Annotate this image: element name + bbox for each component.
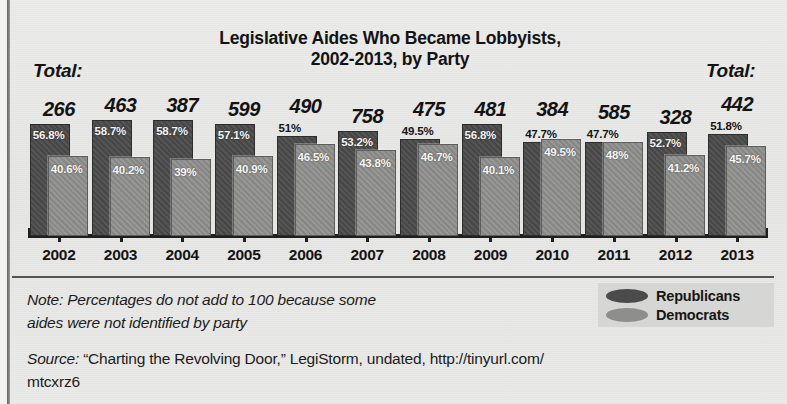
bar-group: 75853.2%43.8% <box>338 88 396 236</box>
chart-source: Source: “Charting the Revolving Door,” L… <box>27 347 767 393</box>
chart-source-word: Source: <box>27 350 79 367</box>
chart-source-line1: “Charting the Revolving Door,” LegiStorm… <box>79 350 544 367</box>
x-axis-label-2008: 2008 <box>400 246 458 264</box>
plot-area: 26656.8%40.6%46358.7%40.2%38758.7%39%599… <box>28 88 768 236</box>
bar-label-democrats: 40.6% <box>51 163 83 175</box>
bar-label-democrats: 45.7% <box>729 153 761 165</box>
bar-total-value: 585 <box>598 101 630 124</box>
legend-label-democrats: Democrats <box>656 307 729 323</box>
bar-total-value: 463 <box>105 94 137 117</box>
bar-total-value: 328 <box>660 106 692 129</box>
x-axis-label-2012: 2012 <box>647 246 705 264</box>
bar-group: 46358.7%40.2% <box>92 88 150 236</box>
x-axis-label-2011: 2011 <box>585 246 643 264</box>
bar-label-democrats: 40.2% <box>113 164 145 176</box>
x-axis-tick-labels: 2002200320042005200620072008200920102011… <box>28 246 768 270</box>
bar-label-democrats: 49.5% <box>544 146 576 158</box>
chart-title-line1: Legislative Aides Who Became Lobbyists, <box>219 28 561 48</box>
chart-title: Legislative Aides Who Became Lobbyists, … <box>150 28 630 70</box>
chart-note-line1: Note: Percentages do not add to 100 beca… <box>27 291 376 308</box>
x-axis-label-2007: 2007 <box>338 246 396 264</box>
x-axis-label-2002: 2002 <box>30 246 88 264</box>
bar-label-republicans: 56.8% <box>465 129 497 141</box>
bar-label-republicans: 51% <box>279 122 301 134</box>
bar-group: 58547.7%48% <box>585 88 643 236</box>
x-axis-label-2006: 2006 <box>277 246 335 264</box>
legend-swatch-democrats-icon <box>606 308 648 322</box>
bar-group: 32852.7%41.2% <box>647 88 705 236</box>
bar-total-value: 490 <box>290 95 322 118</box>
bar-total-value: 387 <box>166 94 198 117</box>
bar-label-republicans: 49.5% <box>402 125 434 137</box>
bar-label-democrats: 40.1% <box>483 164 515 176</box>
total-label-right: Total: <box>706 60 755 82</box>
bar-label-democrats: 39% <box>174 166 196 178</box>
footer-divider <box>12 276 774 278</box>
bar-label-republicans: 56.8% <box>33 129 65 141</box>
bar-group: 47549.5%46.7% <box>400 88 458 236</box>
total-label-left: Total: <box>33 60 82 82</box>
bar-label-democrats: 48% <box>606 149 628 161</box>
bar-total-value: 481 <box>475 98 507 121</box>
x-axis-label-2013: 2013 <box>708 246 766 264</box>
bar-label-democrats: 46.5% <box>298 151 330 163</box>
bar-label-republicans: 57.1% <box>218 129 250 141</box>
x-axis-label-2005: 2005 <box>215 246 273 264</box>
bar-label-democrats: 40.9% <box>236 163 268 175</box>
bar-label-democrats: 43.8% <box>359 157 391 169</box>
bar-label-republicans: 53.2% <box>341 136 373 148</box>
bar-label-republicans: 52.7% <box>650 137 682 149</box>
bar-label-republicans: 51.8% <box>710 120 742 132</box>
legend-swatch-republicans-icon <box>606 289 648 303</box>
chart-note: Note: Percentages do not add to 100 beca… <box>27 288 547 334</box>
legend-item-democrats: Democrats <box>606 305 729 324</box>
scan-margin <box>0 0 7 404</box>
bar-total-value: 442 <box>721 93 753 116</box>
bar-total-value: 599 <box>228 98 260 121</box>
bar-label-democrats: 41.2% <box>668 162 700 174</box>
bar-group: 44251.8%45.7% <box>708 88 766 236</box>
legend-label-republicans: Republicans <box>656 288 740 304</box>
scan-edge-line <box>7 0 10 404</box>
chart-figure: Legislative Aides Who Became Lobbyists, … <box>0 0 787 404</box>
x-axis-label-2010: 2010 <box>523 246 581 264</box>
bar-label-republicans: 58.7% <box>95 125 127 137</box>
bar-label-republicans: 58.7% <box>156 125 188 137</box>
chart-source-line2: mtcxrz6 <box>27 370 767 393</box>
bar-label-democrats: 46.7% <box>421 151 453 163</box>
bar-group: 38447.7%49.5% <box>523 88 581 236</box>
x-axis-label-2009: 2009 <box>462 246 520 264</box>
bar-label-republicans: 47.7% <box>525 128 557 140</box>
bar-group: 48156.8%40.1% <box>462 88 520 236</box>
bar-group: 49051%46.5% <box>277 88 335 236</box>
bar-total-value: 266 <box>43 98 75 121</box>
bar-group: 59957.1%40.9% <box>215 88 273 236</box>
bar-label-republicans: 47.7% <box>587 128 619 140</box>
bar-total-value: 384 <box>536 98 568 121</box>
x-axis-label-2004: 2004 <box>153 246 211 264</box>
bar-group: 26656.8%40.6% <box>30 88 88 236</box>
x-axis-label-2003: 2003 <box>92 246 150 264</box>
chart-note-line2: aides were not identified by party <box>27 311 547 334</box>
bar-total-value: 758 <box>351 105 383 128</box>
chart-title-line2: 2002-2013, by Party <box>150 49 630 70</box>
legend-item-republicans: Republicans <box>606 286 740 305</box>
bar-group: 38758.7%39% <box>153 88 211 236</box>
bar-total-value: 475 <box>413 98 445 121</box>
legend: Republicans Democrats <box>598 283 774 327</box>
